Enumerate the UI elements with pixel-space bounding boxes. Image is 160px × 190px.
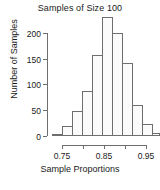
histogram-chart: Samples of Size 100 Number of Samples 20…: [0, 0, 160, 190]
x-axis-tick-label: 0.85: [84, 151, 124, 161]
x-axis-tick: [83, 145, 84, 149]
x-axis-tick: [104, 145, 105, 149]
plot-baseline: [52, 135, 156, 136]
x-axis-tick: [125, 145, 126, 149]
x-axis-tick: [62, 145, 63, 149]
x-axis-tick-label: 0.75: [42, 151, 82, 161]
plot-area: [0, 0, 160, 190]
x-axis-title: Sample Proportions: [0, 164, 160, 174]
x-axis-tick-label: 0.95: [126, 151, 160, 161]
x-axis-tick: [146, 145, 147, 149]
